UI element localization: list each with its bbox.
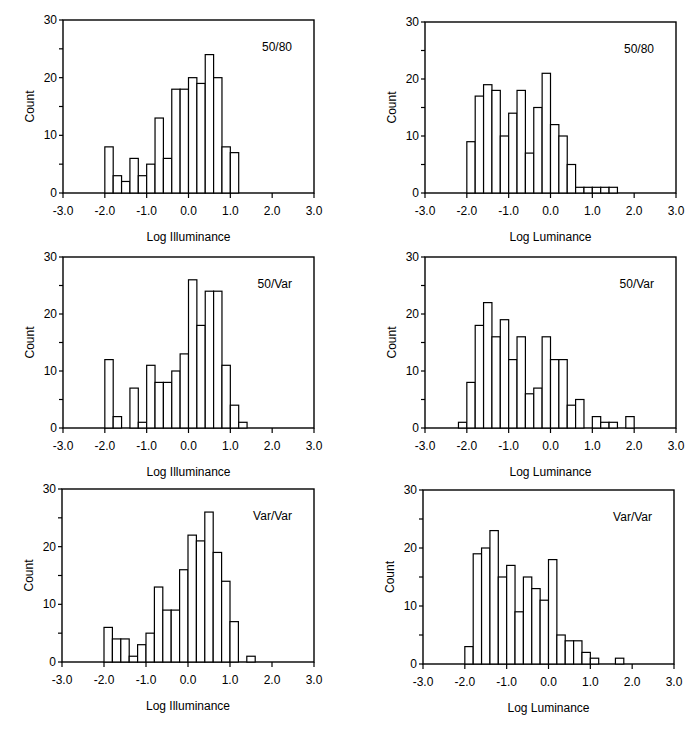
histogram-bars [105, 55, 239, 193]
x-tick-label: 2.0 [624, 675, 641, 689]
histogram-bar [534, 108, 542, 194]
histogram-bar [105, 147, 113, 193]
x-tick-label: 0.0 [180, 673, 197, 687]
histogram-bar [205, 512, 213, 662]
histogram-bar [626, 417, 634, 428]
histogram-bars [104, 512, 255, 662]
histogram-bar [214, 78, 222, 193]
y-tick-label: 0 [49, 655, 56, 669]
x-tick-label: 2.0 [264, 439, 281, 453]
x-tick-label: 1.0 [584, 204, 601, 218]
histogram-panel-top-right: 0102030-3.0-2.0-1.00.01.02.03.0Log Lumin… [385, 15, 685, 244]
histogram-bar [559, 136, 567, 193]
y-tick-label: 20 [44, 71, 58, 85]
x-tick-label: -3.0 [413, 675, 434, 689]
y-tick-label: 20 [406, 307, 420, 321]
y-tick-label: 20 [43, 540, 57, 554]
histogram-panel-bottom-right: 0102030-3.0-2.0-1.00.01.02.03.0Log Lumin… [383, 483, 683, 715]
histogram-bars [105, 280, 247, 428]
histogram-bar [180, 354, 188, 428]
histogram-bar [189, 280, 197, 428]
x-tick-label: -1.0 [498, 204, 519, 218]
x-tick-label: -1.0 [498, 439, 519, 453]
histogram-bar [592, 417, 600, 428]
histogram-bar [154, 587, 162, 662]
x-tick-label: 0.0 [542, 439, 559, 453]
x-axis-label: Log Illuminance [146, 230, 230, 244]
histogram-bar [542, 337, 550, 428]
y-tick-label: 10 [44, 128, 58, 142]
x-tick-label: -2.0 [94, 439, 115, 453]
histogram-bar [213, 552, 221, 662]
histogram-bar [582, 652, 590, 664]
y-tick-label: 30 [44, 13, 58, 27]
histogram-bar [230, 405, 238, 428]
y-axis-label: Count [23, 326, 37, 359]
x-tick-label: -2.0 [94, 673, 115, 687]
y-tick-label: 20 [44, 307, 58, 321]
histogram-bar [574, 641, 582, 664]
histogram-bar [214, 291, 222, 428]
histogram-bar [197, 83, 205, 193]
x-tick-label: 1.0 [584, 439, 601, 453]
histogram-bar [205, 55, 213, 193]
y-tick-label: 10 [44, 364, 58, 378]
histogram-bar [172, 89, 180, 193]
x-tick-label: 2.0 [264, 204, 281, 218]
x-axis-label: Log Luminance [509, 230, 591, 244]
y-tick-label: 0 [50, 186, 57, 200]
histogram-bar [138, 645, 146, 662]
histogram-bar [492, 337, 500, 428]
histogram-bar [565, 641, 573, 664]
histogram-bar [196, 541, 204, 662]
histogram-bar [540, 600, 548, 664]
histogram-bar [523, 577, 531, 664]
histogram-panel-bottom-left: 0102030-3.0-2.0-1.00.01.02.03.0Log Illum… [22, 482, 323, 713]
x-tick-label: -1.0 [136, 439, 157, 453]
histogram-bar [171, 610, 179, 662]
histogram-bar [239, 422, 247, 428]
histogram-bar [147, 164, 155, 193]
histogram-bar [146, 633, 154, 662]
histogram-bar [500, 320, 508, 428]
histogram-bar [532, 589, 540, 664]
histogram-bar [172, 371, 180, 428]
histogram-bar [484, 85, 492, 193]
histogram-bar [492, 90, 500, 193]
histogram-bar [551, 125, 559, 193]
histogram-bar [590, 658, 598, 664]
x-tick-label: -3.0 [52, 673, 73, 687]
histogram-bar [197, 325, 205, 428]
histogram-bar [507, 565, 515, 664]
histogram-bar [609, 187, 617, 193]
histogram-bar [180, 570, 188, 662]
x-axis-label: Log Luminance [509, 465, 591, 479]
x-tick-label: 3.0 [306, 204, 323, 218]
y-tick-label: 20 [404, 541, 418, 555]
histogram-bar [515, 612, 523, 664]
histogram-bar [615, 658, 623, 664]
condition-label: 50/80 [624, 42, 654, 56]
x-tick-label: -1.0 [136, 204, 157, 218]
histogram-bar [105, 360, 113, 428]
histogram-bar [567, 405, 575, 428]
histogram-panel-top-left: 0102030-3.0-2.0-1.00.01.02.03.0Log Illum… [23, 13, 323, 244]
y-tick-label: 10 [43, 597, 57, 611]
histogram-bar [230, 153, 238, 193]
x-tick-label: 2.0 [264, 673, 281, 687]
histogram-bar [484, 303, 492, 428]
histogram-bar [517, 90, 525, 193]
y-tick-label: 10 [404, 599, 418, 613]
y-tick-label: 30 [404, 483, 418, 497]
histogram-bar [601, 422, 609, 428]
x-tick-label: 0.0 [180, 439, 197, 453]
histogram-bar [163, 158, 171, 193]
histogram-bar [534, 388, 542, 428]
x-tick-label: 1.0 [582, 675, 599, 689]
histogram-bar [557, 635, 565, 664]
y-tick-label: 30 [406, 15, 420, 29]
x-tick-label: -2.0 [456, 439, 477, 453]
histogram-bar [509, 113, 517, 193]
y-tick-label: 20 [406, 72, 420, 86]
x-tick-label: -3.0 [415, 439, 436, 453]
